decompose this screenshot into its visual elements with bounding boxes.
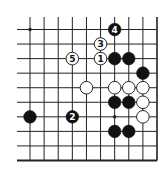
stone-disc [108, 96, 121, 109]
white-stone [80, 81, 93, 94]
black-stone [24, 111, 37, 124]
black-stone-move-2: 2 [66, 111, 79, 124]
go-board: 43512 [0, 0, 167, 173]
black-stone [137, 67, 150, 80]
black-stone [108, 96, 121, 109]
stone-disc [80, 81, 93, 94]
move-number: 5 [69, 54, 75, 64]
star-point [28, 28, 32, 32]
black-stone [122, 96, 135, 109]
stone-disc [137, 111, 150, 124]
white-stone [108, 81, 121, 94]
white-stone [122, 81, 135, 94]
move-number: 2 [69, 112, 75, 122]
stone-disc [122, 81, 135, 94]
stone-disc [137, 81, 150, 94]
stone-disc [122, 125, 135, 138]
white-stone-move-3: 3 [94, 38, 107, 51]
move-number: 4 [112, 25, 118, 35]
black-stone [122, 125, 135, 138]
black-stone-move-4: 4 [108, 23, 121, 36]
move-number: 3 [97, 39, 103, 49]
stone-disc [137, 96, 150, 109]
white-stone [137, 111, 150, 124]
stone-disc [24, 111, 37, 124]
black-stone [108, 125, 121, 138]
move-number: 1 [97, 54, 103, 64]
white-stone-move-5: 5 [66, 52, 79, 65]
white-stone [137, 96, 150, 109]
stone-disc [108, 52, 121, 65]
stone-disc [137, 67, 150, 80]
stone-disc [122, 96, 135, 109]
white-stone-move-1: 1 [94, 52, 107, 65]
stone-disc [108, 125, 121, 138]
white-stone [137, 81, 150, 94]
black-stone [108, 52, 121, 65]
stone-disc [122, 52, 135, 65]
stone-disc [108, 81, 121, 94]
star-point [113, 115, 117, 119]
black-stone [122, 52, 135, 65]
